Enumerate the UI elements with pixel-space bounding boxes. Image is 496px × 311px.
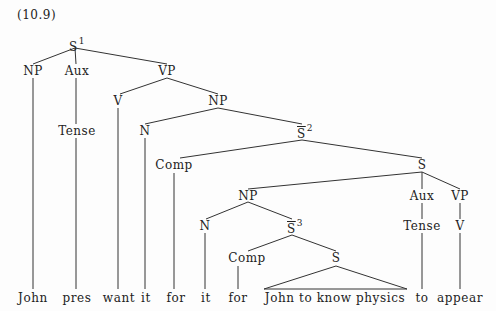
node-label: S [297,127,306,141]
leaf-word: John [18,291,48,305]
leaf-word: pres [62,291,91,305]
node-vp: VP [451,189,469,203]
leaf-word: it [201,291,211,305]
node-label: S [69,40,78,54]
leaf-word: for [228,291,247,305]
node-index: 2 [307,123,313,133]
node-v: V [455,219,464,233]
node-s1: S1 [69,36,85,54]
node-index: 3 [297,218,303,228]
leaf-word: it [141,291,151,305]
leaf-word: appear [437,291,483,305]
example-number: (10.9) [17,8,56,22]
node-v: V [113,94,122,108]
leaf-phrase: John to know physics [265,291,406,305]
node-vp: VP [158,64,176,78]
node-label: S [287,222,296,236]
node-sbar3: S3 [287,218,303,236]
leaf-word: for [166,291,185,305]
node-aux: Aux [410,189,435,203]
node-s: S [332,251,341,265]
node-n: N [200,219,211,233]
node-n: N [140,124,151,138]
leaf-word: to [415,291,428,305]
node-index: 1 [79,36,85,46]
node-np: NP [208,94,228,108]
leaf-word: want [103,291,135,305]
node-tense: Tense [403,219,441,233]
node-tense: Tense [58,124,96,138]
node-np: NP [238,189,258,203]
node-aux: Aux [65,64,90,78]
node-sbar2: S2 [297,123,313,141]
node-comp: Comp [228,251,265,265]
node-comp: Comp [155,158,192,172]
node-np: NP [23,64,43,78]
node-s: S [418,158,427,172]
